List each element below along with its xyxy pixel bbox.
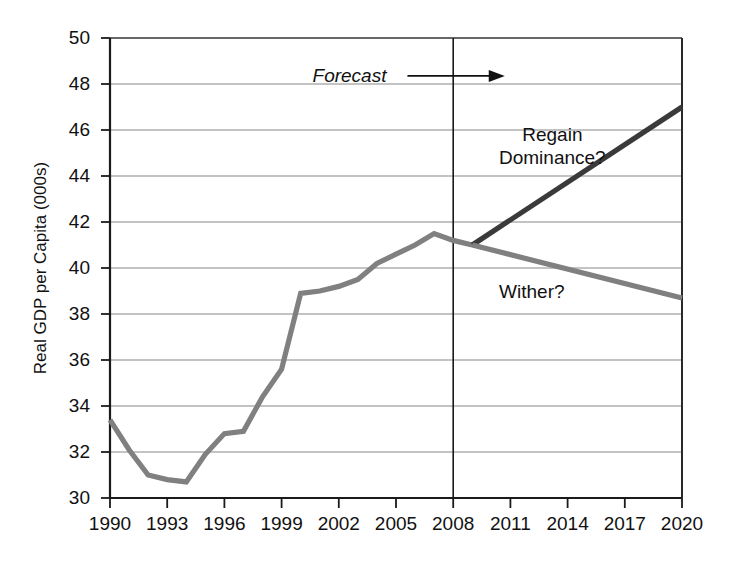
y-tick-label-30: 30 — [48, 488, 90, 507]
x-tick-label-2017: 2017 — [595, 514, 655, 533]
x-tick-label-1996: 1996 — [194, 514, 254, 533]
y-tick-marks — [101, 38, 110, 498]
annotation-wither: Wither? — [499, 281, 564, 303]
annotation-forecast: Forecast — [313, 65, 387, 87]
y-tick-label-50: 50 — [48, 28, 90, 47]
figure-caption — [0, 566, 731, 587]
x-tick-label-2005: 2005 — [366, 514, 426, 533]
x-tick-label-2020: 2020 — [652, 514, 712, 533]
x-tick-label-1993: 1993 — [137, 514, 197, 533]
y-tick-label-46: 46 — [48, 120, 90, 139]
annotation-line: Dominance? — [477, 147, 627, 169]
y-tick-label-36: 36 — [48, 350, 90, 369]
annotation-line: Regain — [477, 124, 627, 146]
x-tick-label-2002: 2002 — [309, 514, 369, 533]
x-tick-label-2014: 2014 — [538, 514, 598, 533]
x-tick-label-2008: 2008 — [423, 514, 483, 533]
y-tick-label-42: 42 — [48, 212, 90, 231]
y-tick-label-40: 40 — [48, 258, 90, 277]
x-tick-marks — [110, 498, 682, 508]
x-tick-label-2011: 2011 — [480, 514, 540, 533]
y-tick-label-48: 48 — [48, 74, 90, 93]
x-tick-label-1990: 1990 — [80, 514, 140, 533]
x-tick-label-1999: 1999 — [252, 514, 312, 533]
y-tick-label-32: 32 — [48, 442, 90, 461]
y-tick-label-44: 44 — [48, 166, 90, 185]
annotation-regain-dominance: RegainDominance? — [477, 124, 627, 169]
y-tick-label-38: 38 — [48, 304, 90, 323]
y-tick-label-34: 34 — [48, 396, 90, 415]
chart-canvas — [0, 0, 731, 587]
gdp-forecast-chart: Real GDP per Capita (000s)30323436384042… — [0, 0, 731, 587]
